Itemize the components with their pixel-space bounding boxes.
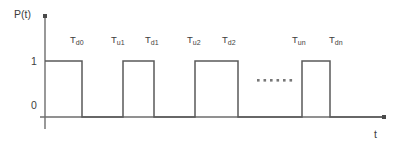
interval-label-tun: Tun xyxy=(292,35,306,45)
interval-label-tu2-sub: u2 xyxy=(193,39,201,46)
signal-waveform xyxy=(45,61,382,117)
figure-container: P(t) t 1 0 Td0 Tu1 Td1 Tu2 Td2 Tun Tdn xyxy=(0,0,405,154)
x-axis-arrow-cap xyxy=(382,115,386,119)
interval-label-td1-base: T xyxy=(145,34,151,45)
interval-label-tu1: Tu1 xyxy=(111,35,125,45)
interval-label-td2: Td2 xyxy=(222,35,236,45)
y-tick-label-high: 1 xyxy=(31,56,37,67)
interval-label-tu2-base: T xyxy=(187,34,193,45)
ellipsis-dots-icon xyxy=(257,79,292,82)
interval-label-tun-sub: un xyxy=(298,39,306,46)
x-axis-label: t xyxy=(374,129,377,140)
interval-label-td0-base: T xyxy=(70,34,76,45)
interval-label-tu2: Tu2 xyxy=(187,35,201,45)
interval-label-td1: Td1 xyxy=(145,35,159,45)
interval-label-tun-base: T xyxy=(292,34,298,45)
y-axis-arrow-cap xyxy=(43,14,47,18)
y-tick-label-low: 0 xyxy=(31,100,37,111)
interval-label-tdn-sub: dn xyxy=(335,39,343,46)
interval-label-tdn: Tdn xyxy=(329,35,343,45)
y-axis-label: P(t) xyxy=(14,9,31,20)
interval-label-td0-sub: d0 xyxy=(76,39,84,46)
interval-label-td0: Td0 xyxy=(70,35,84,45)
interval-label-tu1-sub: u1 xyxy=(117,39,125,46)
interval-label-td1-sub: d1 xyxy=(151,39,159,46)
interval-label-tu1-base: T xyxy=(111,34,117,45)
pulse-train-plot xyxy=(0,0,405,154)
interval-label-td2-base: T xyxy=(222,34,228,45)
interval-label-td2-sub: d2 xyxy=(228,39,236,46)
interval-label-tdn-base: T xyxy=(329,34,335,45)
